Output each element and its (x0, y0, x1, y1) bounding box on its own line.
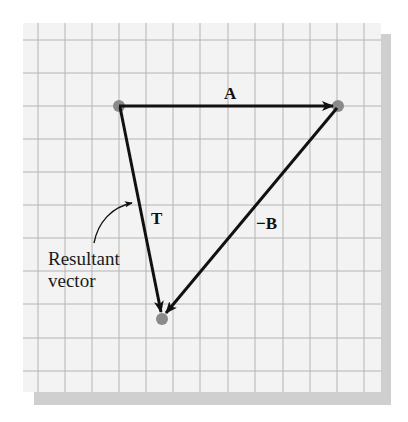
vector-t-label: T (151, 210, 162, 227)
annotation-line-2: vector (48, 270, 120, 292)
annotation-line-1: Resultant (48, 248, 120, 270)
annotation-pointer-arrow (94, 203, 132, 243)
vector-drawing (0, 0, 408, 422)
tip-t-point (156, 313, 168, 325)
grid-lines (23, 23, 381, 392)
vector-neg-b-label: −B (256, 215, 277, 232)
resultant-vector-annotation: Resultant vector (48, 248, 120, 292)
vector-a-label: A (224, 85, 236, 102)
vector-diagram-figure: A T −B Resultant vector (0, 0, 408, 422)
